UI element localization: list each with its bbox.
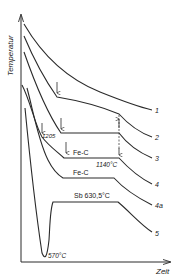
y-axis-label: Temperatur xyxy=(6,35,15,76)
x-axis xyxy=(21,260,171,265)
annotation-sb: Sb 630,5°C xyxy=(74,192,110,199)
cooling-curve-diagram: Temperatur Zeit 1 2 3 4 1205 Fe-C 1140°C… xyxy=(0,0,184,279)
curve-3-label: 3 xyxy=(155,155,159,162)
annotation-570: 570°C xyxy=(48,252,66,259)
curve-1-label: 1 xyxy=(155,107,159,114)
curve-4a-label: 4a xyxy=(155,202,163,209)
curve-2-label: 2 xyxy=(154,134,159,141)
x-axis-label: Zeit xyxy=(155,267,170,276)
annotation-1140: 1140°C xyxy=(96,161,118,168)
curve-3 xyxy=(24,52,152,158)
curve-1 xyxy=(24,24,152,110)
annotation-fe-c-1: Fe-C xyxy=(73,149,89,156)
annotation-fe-c-2: Fe-C xyxy=(73,169,89,176)
curve-5-label: 5 xyxy=(155,230,159,237)
y-axis xyxy=(19,14,24,262)
curve-4-label: 4 xyxy=(155,181,159,188)
curve-5 xyxy=(25,108,152,257)
annotation-1205: 1205 xyxy=(42,133,56,139)
